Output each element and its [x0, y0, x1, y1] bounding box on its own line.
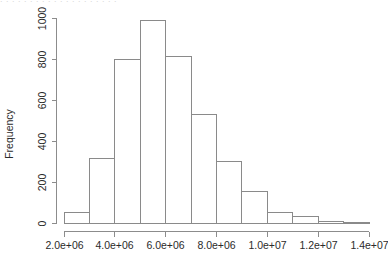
histogram-bar [242, 192, 268, 224]
y-axis-tick-label: 800 [36, 51, 48, 69]
histogram-bar [268, 213, 293, 224]
histogram-bar [90, 159, 115, 224]
y-axis-tick-label: 200 [36, 174, 48, 192]
y-axis: 02004006008001000 [36, 7, 57, 227]
x-axis-tick-label: 4.0e+06 [95, 239, 133, 251]
histogram-bar [217, 162, 242, 224]
histogram-bar [141, 21, 166, 224]
x-axis-tick-label: 1.0e+07 [248, 239, 286, 251]
y-axis-tick-label: 0 [36, 220, 48, 226]
x-axis: 2.0e+064.0e+066.0e+068.0e+061.0e+071.2e+… [45, 232, 388, 252]
histogram-bar [319, 222, 344, 224]
x-axis-tick-label: 6.0e+06 [146, 239, 184, 251]
x-axis-tick-label: 2.0e+06 [45, 239, 83, 251]
histogram-bars [65, 21, 370, 224]
x-axis-tick-label: 1.4e+07 [350, 239, 388, 251]
x-axis-tick-label: 8.0e+06 [197, 239, 235, 251]
histogram-bar [293, 217, 319, 224]
histogram-bar [344, 223, 370, 224]
histogram-svg: 02004006008001000 2.0e+064.0e+066.0e+068… [0, 0, 388, 264]
histogram-bar [166, 57, 192, 224]
histogram-plot-root: . . . . . . . . . . . . . . . . . . . . … [0, 0, 388, 264]
y-axis-title: Frequency [3, 108, 15, 158]
y-axis-tick-label: 600 [36, 92, 48, 110]
histogram-bar [192, 115, 217, 224]
x-axis-tick-label: 1.2e+07 [299, 239, 337, 251]
y-axis-tick-label: 400 [36, 133, 48, 151]
x-axis-ticks: 2.0e+064.0e+066.0e+068.0e+061.0e+071.2e+… [45, 232, 388, 252]
histogram-bar [115, 60, 141, 224]
y-axis-tick-label: 1000 [36, 7, 48, 31]
histogram-bar [65, 213, 90, 224]
y-axis-ticks: 02004006008001000 [36, 7, 57, 227]
